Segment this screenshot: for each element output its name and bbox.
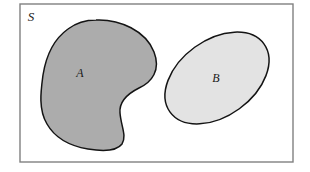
diagram-canvas: S A B — [0, 0, 310, 172]
set-a-label: A — [75, 66, 84, 80]
set-diagram-figure: S A B — [0, 0, 310, 172]
set-b-label: B — [212, 71, 220, 85]
universe-label: S — [28, 9, 35, 24]
